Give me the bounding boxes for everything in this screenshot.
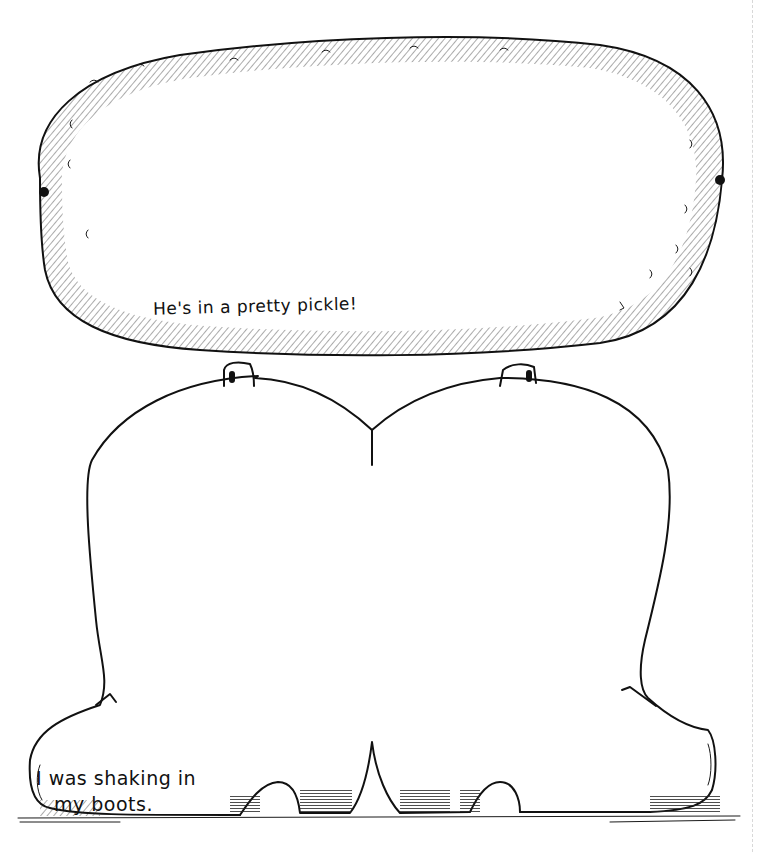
- right-ankle-crease: [622, 687, 656, 706]
- boots-caption-line-2: my boots.: [54, 793, 153, 815]
- pickle-drawing: [39, 37, 725, 355]
- right-boot-outline: [372, 378, 715, 812]
- sole-shading: [460, 788, 480, 812]
- pickle-left-tip: [39, 187, 49, 197]
- sole-shading: [400, 788, 450, 813]
- pickle-shading: [39, 37, 723, 355]
- sole-shading: [300, 788, 352, 813]
- sole-shading: [650, 795, 720, 813]
- left-ankle-crease: [96, 694, 116, 705]
- pickle-right-tip: [715, 175, 725, 185]
- boots-drawing: [18, 362, 740, 822]
- boots-caption-line-1: I was shaking in: [36, 767, 196, 789]
- right-toe-highlight: [708, 744, 711, 785]
- illustration: [0, 0, 767, 852]
- left-boot-loop: [224, 362, 254, 386]
- pickle-bumps: [68, 46, 692, 310]
- sole-shading: [230, 795, 260, 813]
- ground-line: [18, 816, 740, 822]
- left-boot-outline: [30, 376, 372, 815]
